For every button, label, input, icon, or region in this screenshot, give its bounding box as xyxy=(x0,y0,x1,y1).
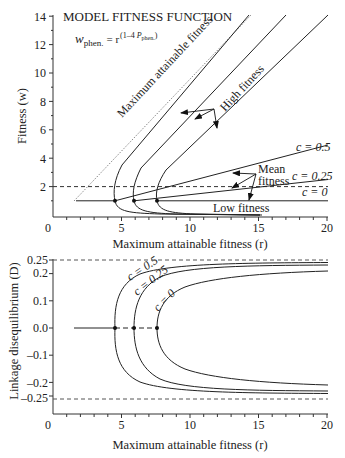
label-max-attainable: Maximum attainable fitness xyxy=(114,12,216,120)
top-x-ticks xyxy=(67,217,327,221)
d-tick-m02: –0.2 xyxy=(26,376,48,390)
d-tick-00: 0.0 xyxy=(33,321,48,335)
y-tick-2: 2 xyxy=(40,180,46,194)
bx-tick-15: 15 xyxy=(253,418,265,432)
top-y-ticks xyxy=(49,16,53,201)
d-curve-c025 xyxy=(134,265,328,391)
bx-tick-10: 10 xyxy=(184,418,196,432)
d-tick-m01: –0.1 xyxy=(26,348,48,362)
d-curve-c0 xyxy=(157,271,328,385)
d-tick-02: 0.2 xyxy=(33,266,48,280)
bottom-chart: 0.25 0.2 0.1 0.0 –0.1 –0.2 –0.25 0 5 10 … xyxy=(7,253,333,452)
label-c025-top: c = 0.25 xyxy=(292,169,332,183)
label-high-fitness: High fitness xyxy=(217,62,267,114)
bottom-y-ticks xyxy=(49,260,53,396)
label-c05-top: c = 0.5 xyxy=(296,140,330,154)
bottom-y-tick-labels: 0.25 0.2 0.1 0.0 –0.1 –0.2 –0.25 xyxy=(20,253,48,405)
bottom-x-ticks xyxy=(67,414,327,418)
bx-tick-5: 5 xyxy=(119,418,125,432)
label-low-fitness: Low fitness xyxy=(213,201,270,215)
x-tick-0: 0 xyxy=(45,221,51,235)
bottom-y-axis-title: Linkage disequilibrium (D) xyxy=(7,262,21,399)
d-tick-025: 0.25 xyxy=(27,253,48,267)
top-x-tick-labels: 0 5 10 15 20 xyxy=(45,221,333,235)
formula: wphen.= r(1–4 Pphen.) xyxy=(75,31,158,48)
y-tick-12: 12 xyxy=(34,38,46,52)
x-tick-5: 5 xyxy=(119,221,125,235)
top-y-axis-title: Fitness (w) xyxy=(15,88,29,144)
bottom-x-axis-title: Maximum attainable fitness (r) xyxy=(112,438,267,452)
label-fitness: fitness xyxy=(258,174,290,188)
high-fitness-arrows xyxy=(181,109,217,128)
bx-tick-0: 0 xyxy=(45,418,51,432)
d-tick-01: 0.1 xyxy=(33,294,48,308)
bottom-x-tick-labels: 0 5 10 15 20 xyxy=(45,418,333,432)
x-tick-10: 10 xyxy=(184,221,196,235)
bx-tick-20: 20 xyxy=(321,418,333,432)
top-chart: 2 4 6 8 10 12 14 0 5 10 15 20 xyxy=(15,9,333,251)
x-tick-20: 20 xyxy=(321,221,333,235)
y-tick-14: 14 xyxy=(34,10,46,24)
top-x-axis-title: Maximum attainable fitness (r) xyxy=(112,237,267,251)
y-tick-4: 4 xyxy=(40,152,46,166)
d-tick-m025: –0.25 xyxy=(20,391,48,405)
figure: 2 4 6 8 10 12 14 0 5 10 15 20 xyxy=(0,0,345,458)
label-c0-bottom: c = 0 xyxy=(150,286,178,314)
top-y-tick-labels: 2 4 6 8 10 12 14 xyxy=(34,10,46,194)
y-tick-6: 6 xyxy=(40,123,46,137)
label-c0-top: c = 0 xyxy=(302,185,327,199)
y-tick-10: 10 xyxy=(34,66,46,80)
x-tick-15: 15 xyxy=(253,221,265,235)
y-tick-8: 8 xyxy=(40,95,46,109)
